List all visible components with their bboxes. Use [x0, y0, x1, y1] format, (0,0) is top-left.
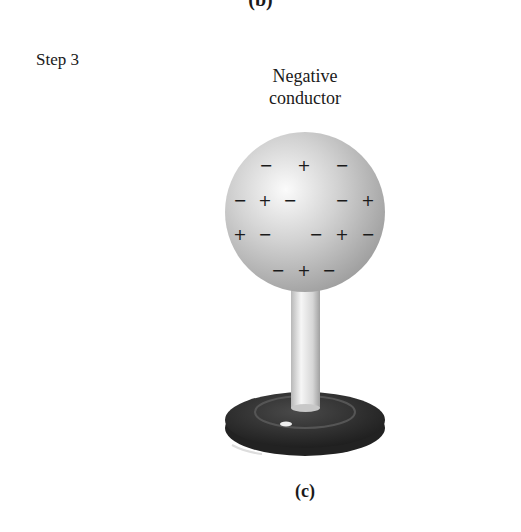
negative-charge: −	[335, 156, 348, 175]
positive-charge: +	[297, 261, 310, 280]
positive-charge: +	[361, 191, 374, 210]
conductor-illustration: −+−−+−−++−−+−−+−	[0, 0, 521, 532]
support-rod	[291, 280, 320, 408]
negative-charge: −	[258, 225, 271, 244]
negative-charge: −	[322, 261, 335, 280]
positive-charge: +	[258, 191, 271, 210]
positive-charge: +	[297, 156, 310, 175]
positive-charge: +	[335, 225, 348, 244]
negative-charge: −	[283, 191, 296, 210]
positive-charge: +	[233, 225, 246, 244]
negative-charge: −	[271, 261, 284, 280]
negative-charge: −	[335, 191, 348, 210]
negative-charge: −	[309, 225, 322, 244]
negative-charge: −	[233, 191, 246, 210]
negative-charge: −	[361, 225, 374, 244]
negative-charge: −	[259, 156, 272, 175]
figure-caption: (c)	[0, 481, 521, 502]
